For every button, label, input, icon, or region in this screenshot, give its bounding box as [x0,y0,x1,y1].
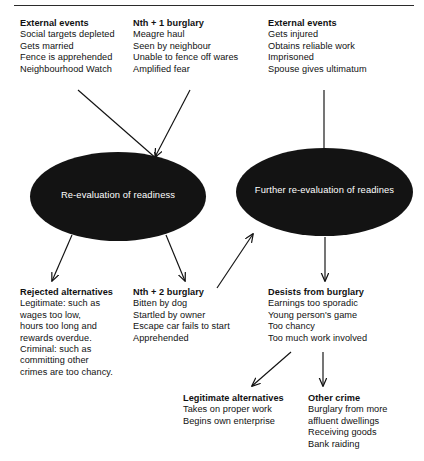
ellipse-label: Further re-evaluation of readines [255,184,394,195]
node-line: Social targets depleted [20,29,115,40]
node-line: Earnings too sporadic [268,298,367,309]
node-line: Escape car fails to start [133,321,230,332]
edge-external-events-1-to-re-evaluation [78,90,158,160]
node-title: Other crime [308,393,388,404]
node-nth-plus-1-burglary: Nth + 1 burglary Meagre haul Seen by nei… [133,18,238,75]
node-title: Nth + 1 burglary [133,18,238,29]
node-line: Receiving goods [308,427,388,438]
edge-re-evaluation-to-rejected-alternatives [52,235,72,281]
node-title: External events [268,18,367,29]
node-nth-plus-2-burglary: Nth + 2 burglary Bitten by dog Startled … [133,287,230,344]
node-title: External events [20,18,115,29]
node-external-events-1: External events Social targets depleted … [20,18,115,75]
node-line: Obtains reliable work [268,41,367,52]
node-line: affluent dwellings [308,416,388,427]
node-line: Takes on proper work [183,404,284,415]
ellipse-label: Re-evaluation of readiness [61,189,175,200]
node-title: Rejected alternatives [20,287,113,298]
node-other-crime: Other crime Burglary from more affluent … [308,393,388,450]
node-title: Nth + 2 burglary [133,287,230,298]
node-line: Begins own enterprise [183,416,284,427]
node-line: Too much work involved [268,333,367,344]
node-line: Too chancy [268,321,367,332]
edge-nth-plus-2-to-further-re-evaluation [217,234,253,288]
node-line: Young person's game [268,310,367,321]
node-line: Bitten by dog [133,298,230,309]
diagram-canvas: External events Social targets depleted … [0,0,424,461]
node-line: Fence is apprehended [20,52,115,63]
node-rejected-alternatives: Rejected alternatives Legitimate: such a… [20,287,113,378]
node-line: Unable to fence off wares [133,52,238,63]
node-line: Spouse gives ultimatum [268,64,367,75]
node-line: Bank raiding [308,439,388,450]
node-further-re-evaluation-of-readiness: Further re-evaluation of readines [236,148,413,236]
node-re-evaluation-of-readiness: Re-evaluation of readiness [30,152,206,241]
node-title: Legitimate alternatives [183,393,284,404]
node-line: Gets injured [268,29,367,40]
edge-re-evaluation-to-nth-plus-2 [166,235,185,281]
node-line: Burglary from more [308,404,388,415]
node-title: Desists from burglary [268,287,367,298]
top-divider-rule [14,5,414,6]
node-line: Amplified fear [133,64,238,75]
node-line: hours too long and [20,321,113,332]
node-line: crimes are too chancy. [20,367,113,378]
edge-desists-to-legitimate-alternatives [252,352,291,386]
node-desists-from-burglary: Desists from burglary Earnings too spora… [268,287,367,344]
node-line: wages too low, [20,310,113,321]
node-line: Criminal: such as [20,344,113,355]
node-line: Neighbourhood Watch [20,64,115,75]
node-line: Gets married [20,41,115,52]
node-line: Legitimate: such as [20,298,113,309]
node-line: Imprisoned [268,52,367,63]
edge-nth-plus-1-to-re-evaluation [155,90,190,157]
node-line: Startled by owner [133,310,230,321]
node-line: Apprehended [133,333,230,344]
node-external-events-2: External events Gets injured Obtains rel… [268,18,367,75]
node-line: Seen by neighbour [133,41,238,52]
node-line: committing other [20,355,113,366]
node-line: Meagre haul [133,29,238,40]
node-legitimate-alternatives: Legitimate alternatives Takes on proper … [183,393,284,427]
node-line: rewards overdue. [20,333,113,344]
